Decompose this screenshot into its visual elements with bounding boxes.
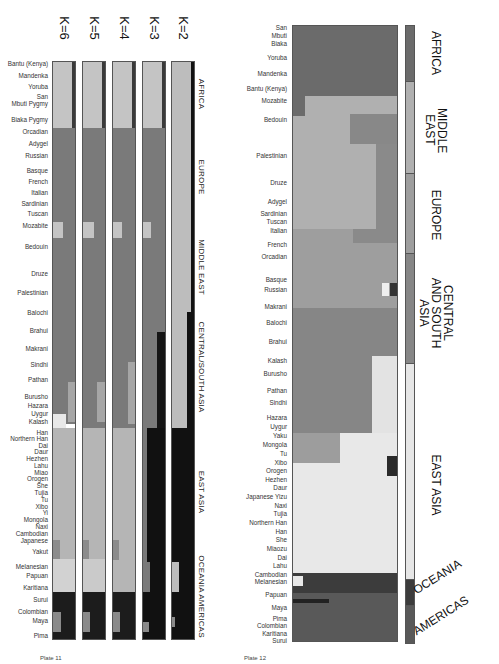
pop-label: Pima <box>34 632 48 639</box>
region-stripe-africa <box>405 25 415 83</box>
region-text: EAST ASIA <box>197 471 206 514</box>
region-label-middle-east: MIDDLE EAST <box>416 95 456 165</box>
pop-label: Russian <box>25 152 48 159</box>
pop-label: Melanesian <box>16 563 48 570</box>
pop-label: Miaozu <box>267 545 287 552</box>
k-label-text: K=2 <box>176 16 191 40</box>
caption-plate-12: Plate 12 <box>244 655 266 661</box>
k-label-4: K=4 <box>112 8 136 48</box>
pop-label: Orogen <box>27 475 48 482</box>
pop-label: Daur <box>273 484 287 491</box>
pop-label: Bantu (Kenya) <box>247 85 287 92</box>
pop-label: Mongola <box>263 441 287 448</box>
pop-label: Tu <box>280 450 287 457</box>
pop-label: Karitiana <box>262 630 287 637</box>
pop-label: Sardinian <box>21 200 48 207</box>
pop-label: Mongola <box>24 516 48 523</box>
pop-label: Melanesian <box>255 578 287 585</box>
pop-label: Sardinian <box>260 210 287 217</box>
pop-label: Italian <box>270 227 287 234</box>
pop-label: Papuan <box>26 572 48 579</box>
pop-label: Sindhi <box>30 361 48 368</box>
pop-label: Pathan <box>28 376 48 383</box>
pop-label: Northern Han <box>249 519 287 526</box>
pop-label: Burusho <box>25 393 48 400</box>
region-text: MIDDLE EAST <box>424 108 448 152</box>
region-text: MIDDLE EAST <box>197 239 206 295</box>
pop-label: Northern Han <box>10 435 48 442</box>
pop-label: Pathan <box>267 387 287 394</box>
pop-label: Bantu (Kenya) <box>8 60 48 67</box>
pop-label: Russian <box>264 286 287 293</box>
region-label-middle-east: MIDDLE EAST <box>190 227 212 307</box>
pop-label: Kalash <box>268 357 287 364</box>
pop-label: Papuan <box>265 591 287 598</box>
pop-label: Colombian <box>257 622 287 629</box>
pop-label: Mandenka <box>258 70 287 77</box>
pop-label: Biaka <box>271 40 287 47</box>
pop-label: Balochi <box>27 309 48 316</box>
pop-label: Burusho <box>264 370 287 377</box>
region-stripe-middle-east <box>405 81 415 175</box>
pop-label: Yoruba <box>28 83 48 90</box>
pop-label: Yi <box>43 509 48 516</box>
k-label-text: K=6 <box>57 16 72 40</box>
pop-label: San <box>37 93 48 100</box>
pop-label: Han <box>275 528 287 535</box>
pop-label: Hazara <box>267 414 287 421</box>
pop-label: Mbuti Pygmy <box>12 100 48 107</box>
caption-plate-11: Plate 11 <box>40 655 62 661</box>
region-text: OCEANIA <box>197 555 206 592</box>
pop-label: Druze <box>31 270 48 277</box>
pop-label: Orcadian <box>261 253 287 260</box>
pop-label: Maya <box>33 617 48 624</box>
region-label-oceania: OCEANIA <box>411 557 464 597</box>
pop-label: Sindhi <box>269 399 287 406</box>
pop-label: Palestinian <box>256 152 287 159</box>
region-label-africa: AFRICA <box>416 25 456 81</box>
pop-label: Adygel <box>268 198 287 205</box>
region-stripe-central-south-asia <box>405 253 415 365</box>
pop-label: Brahui <box>30 327 48 334</box>
pop-label: Italian <box>31 189 48 196</box>
pop-label: French <box>28 178 48 185</box>
region-stripe-europe <box>405 173 415 255</box>
region-text: AFRICA <box>197 79 206 110</box>
pop-label: Uygur <box>31 410 48 417</box>
pop-label: Mozabite <box>261 97 287 104</box>
region-text: CENTRAL AND SOUTH ASIA <box>418 273 454 353</box>
region-text: AFRICA <box>430 31 442 75</box>
pop-label: Basque <box>266 276 287 283</box>
pop-label: San <box>276 24 287 31</box>
region-label-americas: AMERICAS <box>190 591 212 640</box>
region-label-east-asia: EAST ASIA <box>190 427 212 557</box>
region-text: EAST ASIA <box>430 454 442 515</box>
pop-label: Yaku <box>273 432 287 439</box>
pop-label: Hezhen <box>26 455 48 462</box>
pop-label: Cambodian <box>16 530 48 537</box>
pop-label: Naxi <box>274 502 287 509</box>
pop-label: Japanese <box>21 537 48 544</box>
pop-label: Tu <box>41 496 48 503</box>
pop-label: Tuscan <box>267 218 287 225</box>
pop-label: Japanese Yizu <box>246 493 287 500</box>
pop-label: Orcadian <box>22 128 48 135</box>
pop-label: Biaka Pygmy <box>11 116 48 123</box>
structure-bar-k5 <box>82 61 106 640</box>
region-text: EUROPE <box>197 160 206 195</box>
pop-label: Yoruba <box>267 54 287 61</box>
pop-label: Naxi <box>35 523 48 530</box>
pop-label: Hezhen <box>265 476 287 483</box>
pop-label: Lahu <box>273 562 287 569</box>
pop-label: Pima <box>273 615 287 622</box>
pop-label: Brahui <box>269 338 287 345</box>
pop-label: Bedouin <box>264 116 287 123</box>
k-label-6: K=6 <box>52 8 76 48</box>
pop-label: Tujia <box>274 510 287 517</box>
pop-label: Bedouin <box>25 243 48 250</box>
structure-bar-k3 <box>142 61 166 640</box>
region-label-europe: EUROPE <box>190 127 212 227</box>
pop-label: Kalash <box>29 418 48 425</box>
region-label-central-south-asia: CENTRAL/SOUTH ASIA <box>190 307 212 427</box>
pop-label: Surui <box>272 637 287 644</box>
